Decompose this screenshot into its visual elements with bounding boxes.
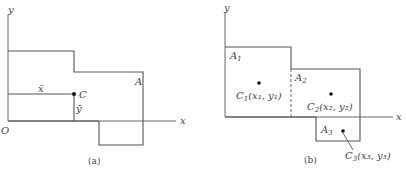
centroid-point <box>72 92 76 96</box>
y-axis-label: y <box>7 4 14 15</box>
origin-label: O <box>1 125 9 136</box>
x-axis-label: x <box>180 115 186 126</box>
area-a2-label: A2 <box>294 72 307 85</box>
caption-a: (a) <box>88 156 100 166</box>
figure-a: y x O A C x̄ ȳ (a) <box>1 4 186 166</box>
area-outline <box>225 47 360 141</box>
centroid-c3-point <box>341 129 345 133</box>
centroid-c3-label: C3(x₃, y₃) <box>345 150 391 163</box>
area-outline <box>8 51 143 145</box>
centroid-label: C <box>79 89 87 100</box>
centroid-c1-point <box>257 81 261 85</box>
ybar-label: ȳ <box>75 103 82 114</box>
y-axis-label: y <box>223 2 230 13</box>
area-label: A <box>134 76 142 87</box>
composite-area-diagram: y x O A C x̄ ȳ (a) y x A1 A2 A3 C1(x₁, y… <box>0 0 406 173</box>
caption-b: (b) <box>304 155 317 165</box>
x-axis-label: x <box>396 111 402 122</box>
area-a3-label: A3 <box>320 124 333 137</box>
xbar-label: x̄ <box>38 83 44 94</box>
area-a1-label: A1 <box>229 50 242 63</box>
centroid-c1-label: C1(x₁, y₁) <box>236 90 282 103</box>
centroid-c2-point <box>329 92 333 96</box>
centroid-c2-label: C2(x₂, y₂) <box>307 101 353 114</box>
figure-b: y x A1 A2 A3 C1(x₁, y₁) C2(x₂, y₂) C3(x₃… <box>223 2 402 165</box>
